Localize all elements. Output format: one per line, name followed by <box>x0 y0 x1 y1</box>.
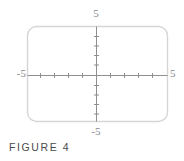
plot-frame <box>28 27 168 122</box>
y-axis-min-label: -5 <box>84 126 108 137</box>
y-axis-max-label: 5 <box>86 8 106 19</box>
x-axis-max-label: 5 <box>170 68 184 79</box>
graph-plot-area: 5 -5 -5 5 <box>0 0 184 140</box>
figure-container: 5 -5 -5 5 FIGURE 4 <box>0 0 184 161</box>
x-axis-min-label: -5 <box>2 68 26 79</box>
figure-caption: FIGURE 4 <box>9 141 70 153</box>
graph-svg <box>0 0 184 140</box>
